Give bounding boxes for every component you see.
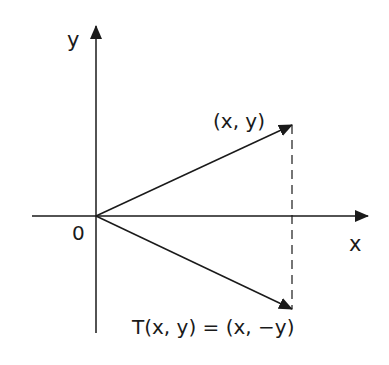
transformed-vector-label: T(x, y) = (x, −y) xyxy=(131,315,294,339)
reflection-diagram: y x 0 (x, y) T(x, y) = (x, −y) xyxy=(0,0,389,365)
origin-label: 0 xyxy=(72,221,85,245)
reflected-vector xyxy=(96,216,292,309)
original-vector-label: (x, y) xyxy=(213,109,265,133)
x-axis-label: x xyxy=(349,232,361,256)
original-vector xyxy=(96,125,292,216)
y-axis-label: y xyxy=(67,28,79,52)
